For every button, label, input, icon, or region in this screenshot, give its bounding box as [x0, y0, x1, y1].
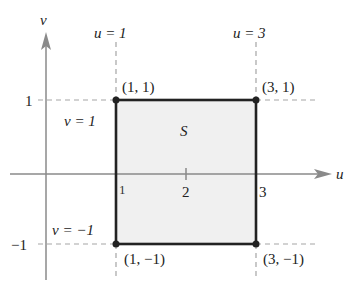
vertex-1-m1 [113, 241, 120, 248]
vertex-label-1-m1: (1, −1) [124, 251, 165, 268]
u-axis-label: u [336, 166, 344, 182]
v-tick-label-1: 1 [25, 93, 33, 109]
u-tick-label-2: 2 [182, 184, 190, 200]
guide-label-u3: u = 3 [233, 25, 266, 41]
vertex-label-3-1: (3, 1) [262, 79, 295, 96]
vertex-1-1 [113, 97, 120, 104]
vertex-label-3-m1: (3, −1) [263, 251, 304, 268]
u-tick-label-3: 3 [259, 184, 267, 200]
vertex-label-1-1: (1, 1) [122, 79, 155, 96]
vertex-3-1 [253, 97, 260, 104]
v-axis-label: v [40, 12, 47, 28]
guide-label-u1: u = 1 [94, 25, 127, 41]
uv-plane-diagram: v u u = 1 u = 3 v = 1 v = −1 1 −1 1 2 3 … [0, 0, 349, 284]
v-tick-label-m1: −1 [11, 237, 27, 253]
guide-label-v1: v = 1 [64, 113, 96, 129]
vertex-3-m1 [253, 241, 260, 248]
guide-label-vm1: v = −1 [52, 222, 94, 238]
u-tick-label-1: 1 [119, 182, 126, 197]
region-label: S [180, 123, 188, 139]
